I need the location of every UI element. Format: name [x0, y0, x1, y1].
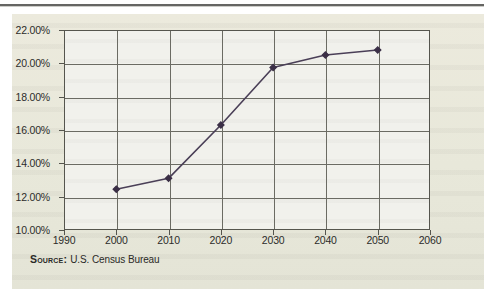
- x-axis-tick: [64, 230, 65, 235]
- source-label: Source:: [30, 253, 67, 265]
- x-axis-tick: [430, 230, 431, 235]
- source-note: Source:U.S. Census Bureau: [30, 253, 160, 265]
- series-markers: [113, 47, 381, 192]
- x-axis-tick-label: 2010: [139, 234, 199, 246]
- source-value: U.S. Census Bureau: [70, 254, 159, 265]
- x-axis-tick: [221, 230, 222, 235]
- y-axis-tick: [59, 163, 64, 164]
- figure-root: 10.00%12.00%14.00%16.00%18.00%20.00%22.0…: [0, 0, 484, 289]
- y-axis-tick: [59, 63, 64, 64]
- y-axis-tick: [59, 30, 64, 31]
- y-axis-tick: [59, 97, 64, 98]
- x-axis-tick: [116, 230, 117, 235]
- x-axis-tick: [325, 230, 326, 235]
- x-axis-tick-label: 2000: [86, 234, 146, 246]
- line-series: [64, 30, 430, 230]
- y-axis-tick-label: 20.00%: [0, 57, 50, 69]
- y-axis-tick-label: 16.00%: [0, 124, 50, 136]
- series-polyline: [116, 50, 377, 189]
- x-axis-tick-label: 2060: [400, 234, 460, 246]
- data-point-marker: [322, 52, 328, 58]
- data-point-marker: [113, 186, 119, 192]
- y-axis-tick-label: 14.00%: [0, 157, 50, 169]
- x-axis-tick-label: 2030: [243, 234, 303, 246]
- y-axis-tick: [59, 197, 64, 198]
- x-axis-tick-label: 2020: [191, 234, 251, 246]
- x-axis-tick: [273, 230, 274, 235]
- plot-container: 10.00%12.00%14.00%16.00%18.00%20.00%22.0…: [0, 0, 484, 289]
- x-axis-tick-label: 2050: [348, 234, 408, 246]
- y-axis-tick: [59, 130, 64, 131]
- x-axis-tick: [169, 230, 170, 235]
- y-axis-tick-label: 12.00%: [0, 191, 50, 203]
- x-axis-tick: [378, 230, 379, 235]
- data-point-marker: [375, 47, 381, 53]
- y-axis-tick-label: 18.00%: [0, 91, 50, 103]
- x-axis-tick-label: 1990: [34, 234, 94, 246]
- x-axis-tick-label: 2040: [295, 234, 355, 246]
- y-axis-tick-label: 22.00%: [0, 24, 50, 36]
